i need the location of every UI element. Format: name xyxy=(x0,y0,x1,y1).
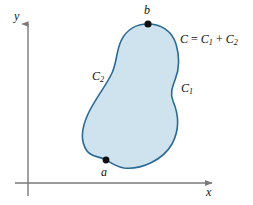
curve-c2-label-base: C xyxy=(92,69,100,83)
curve-sum-term2-base: C xyxy=(226,32,234,46)
curve-sum-term1-base: C xyxy=(201,32,209,46)
y-axis-label: y xyxy=(14,10,19,22)
point-a-marker xyxy=(103,157,110,164)
curve-sum-lhs: C xyxy=(180,32,188,46)
curve-c2-label-subscript: 2 xyxy=(100,75,104,84)
curve-sum-equals: = xyxy=(191,32,198,46)
curve-c1-label-base: C xyxy=(181,81,189,95)
curve-c1-label-subscript: 1 xyxy=(189,87,193,96)
curve-c1-label: C1 xyxy=(181,82,193,96)
curve-sum-plus: + xyxy=(216,32,223,46)
point-a-label: a xyxy=(101,166,107,178)
curve-sum-equation: C=C1+C2 xyxy=(180,33,238,47)
curve-sum-term1-subscript: 1 xyxy=(209,38,213,47)
curve-path-c xyxy=(83,24,179,168)
closed-curve-region xyxy=(83,24,179,168)
x-axis-label: x xyxy=(206,186,211,198)
figure-vector-graphics xyxy=(0,0,253,205)
curve-c2-label: C2 xyxy=(92,70,104,84)
curve-sum-term2-subscript: 2 xyxy=(234,38,238,47)
point-b-label: b xyxy=(144,4,150,16)
point-b-marker xyxy=(144,20,151,27)
figure-canvas: y x b a C1 C2 C=C1+C2 xyxy=(0,0,253,205)
